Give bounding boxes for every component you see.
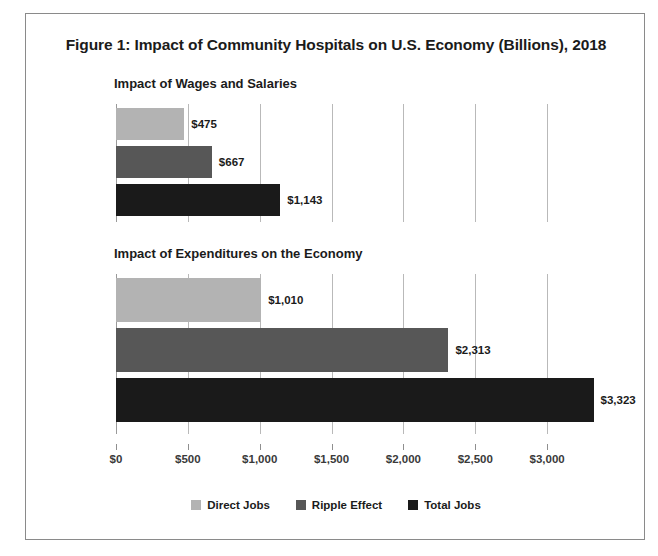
- bar-row: $667: [116, 146, 619, 178]
- chart-panel-wages: Impact of Wages and Salaries $475$667$1,…: [26, 76, 646, 226]
- panel-subtitle-expenditures: Impact of Expenditures on the Economy: [114, 246, 362, 261]
- figure-title: Figure 1: Impact of Community Hospitals …: [26, 36, 646, 54]
- legend-swatch-icon: [296, 500, 306, 510]
- axis-tick-label: $500: [175, 453, 201, 465]
- bar-direct-jobs: [116, 278, 261, 322]
- bar-direct-jobs: [116, 108, 184, 140]
- bar-ripple-effect: [116, 146, 212, 178]
- bar-group-expenditures: $1,010$2,313$3,323: [116, 274, 619, 434]
- legend-label: Total Jobs: [424, 499, 481, 511]
- axis-tick: [116, 444, 117, 450]
- bar-row: $2,313: [116, 328, 619, 372]
- bar-row: $1,143: [116, 184, 619, 216]
- legend-swatch-icon: [191, 500, 201, 510]
- bar-total-jobs: [116, 378, 594, 422]
- axis-tick-label: $3,000: [530, 453, 565, 465]
- bar-value-label: $667: [219, 156, 245, 168]
- axis-tick-label: $0: [110, 453, 123, 465]
- panel-subtitle-wages: Impact of Wages and Salaries: [114, 76, 297, 91]
- legend-label: Direct Jobs: [207, 499, 270, 511]
- legend-item[interactable]: Total Jobs: [408, 499, 481, 511]
- x-axis: $0$500$1,000$1,500$2,000$2,500$3,000: [116, 444, 619, 478]
- bar-value-label: $1,143: [287, 194, 322, 206]
- bar-row: $475: [116, 108, 619, 140]
- figure-container: Figure 1: Impact of Community Hospitals …: [25, 13, 645, 540]
- axis-tick: [547, 444, 548, 450]
- legend-item[interactable]: Ripple Effect: [296, 499, 382, 511]
- plot-area-expenditures: $1,010$2,313$3,323: [116, 274, 619, 434]
- bar-value-label: $475: [191, 118, 217, 130]
- bar-value-label: $1,010: [268, 294, 303, 306]
- axis-tick-label: $2,000: [386, 453, 421, 465]
- bar-row: $3,323: [116, 378, 619, 422]
- legend-label: Ripple Effect: [312, 499, 382, 511]
- bar-ripple-effect: [116, 328, 448, 372]
- bar-row: $1,010: [116, 278, 619, 322]
- axis-tick: [403, 444, 404, 450]
- axis-tick: [188, 444, 189, 450]
- plot-area-wages: $475$667$1,143: [116, 104, 619, 222]
- bar-value-label: $3,323: [601, 394, 636, 406]
- axis-tick: [332, 444, 333, 450]
- axis-tick: [475, 444, 476, 450]
- axis-tick-label: $1,000: [242, 453, 277, 465]
- legend-swatch-icon: [408, 500, 418, 510]
- bar-value-label: $2,313: [455, 344, 490, 356]
- axis-tick-label: $1,500: [314, 453, 349, 465]
- chart-panel-expenditures: Impact of Expenditures on the Economy $1…: [26, 246, 646, 446]
- chart-legend: Direct JobsRipple EffectTotal Jobs: [26, 499, 646, 511]
- axis-tick-label: $2,500: [458, 453, 493, 465]
- bar-total-jobs: [116, 184, 280, 216]
- legend-item[interactable]: Direct Jobs: [191, 499, 270, 511]
- bar-group-wages: $475$667$1,143: [116, 104, 619, 222]
- axis-tick: [260, 444, 261, 450]
